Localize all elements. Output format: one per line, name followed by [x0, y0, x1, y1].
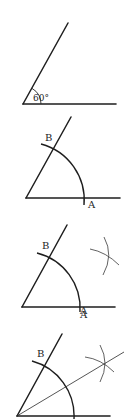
compass-arc [37, 253, 80, 312]
angle-bisection-diagram: 60° B A B A B A [0, 0, 132, 419]
point-a-label: A [87, 199, 96, 210]
angle-ray [23, 23, 68, 104]
point-b-label: B [37, 348, 44, 359]
point-b-label: B [42, 240, 49, 251]
angle-ray [22, 225, 67, 307]
panel-4-bisector: B A [17, 309, 124, 419]
angle-ray [26, 117, 71, 198]
angle-label: 60° [33, 93, 49, 103]
angle-ray [17, 334, 62, 416]
panel-3-construction-arcs: B A [22, 225, 119, 316]
construction-arc-from-b [90, 249, 119, 265]
compass-arc [32, 361, 74, 419]
panel-2-arc: B A [26, 117, 120, 210]
panel-1-angle: 60° [23, 23, 116, 104]
point-a-label: A [79, 309, 88, 320]
point-b-label: B [45, 132, 52, 143]
compass-arc [41, 144, 84, 205]
construction-arc-from-b [85, 357, 114, 372]
